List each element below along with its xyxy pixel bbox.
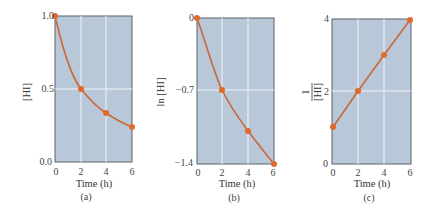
data-point-a-3 <box>129 124 135 130</box>
xtick-b-4: 4 <box>246 167 251 178</box>
x-axis-title-b: Time (h) <box>219 178 256 190</box>
xtick-b-6: 6 <box>271 167 276 178</box>
xtick-c-4: 4 <box>382 167 387 178</box>
xtick-b-0: 0 <box>196 167 201 178</box>
xtick-a-2: 2 <box>79 166 84 177</box>
xtick-b-2: 2 <box>220 167 225 178</box>
ytick-a-0: 0.0 <box>40 156 53 167</box>
ytick-c-4: 4 <box>324 13 329 24</box>
xtick-a-4: 4 <box>104 166 109 177</box>
data-point-b-1 <box>219 87 225 93</box>
x-axis-title-a: Time (h) <box>76 178 113 190</box>
data-point-a-1 <box>78 86 84 92</box>
data-point-c-0 <box>330 124 336 130</box>
chart-a: 1.0 0.5 0.0 0 2 4 6 [HI] Time (h) (a) <box>21 10 135 203</box>
ytick-a-1: 1.0 <box>42 10 55 21</box>
figure-canvas: 1.0 0.5 0.0 0 2 4 6 [HI] Time (h) (a) 0 … <box>0 0 427 219</box>
y-axis-title-c-numerator: 1 <box>300 89 311 94</box>
y-axis-title-a: [HI] <box>21 83 32 101</box>
y-axis-title-c-denominator: [HI] <box>312 83 323 101</box>
data-point-b-0 <box>194 15 200 21</box>
data-point-c-3 <box>407 17 413 23</box>
ytick-c-0: 0 <box>323 158 328 169</box>
x-axis-title-c: Time (h) <box>354 178 391 190</box>
panel-label-a: (a) <box>80 191 91 203</box>
ytick-c-2: 2 <box>324 86 329 97</box>
chart-c: 4 2 0 0 2 4 6 1 [HI] Time (h) (c) <box>300 13 413 204</box>
xtick-c-2: 2 <box>356 167 361 178</box>
xtick-a-0: 0 <box>54 166 59 177</box>
ytick-b-07: −0.7 <box>176 84 194 95</box>
ytick-a-05: 0.5 <box>42 83 55 94</box>
panel-label-c: (c) <box>363 192 374 204</box>
ytick-b-0: 0 <box>189 12 194 23</box>
xtick-c-0: 0 <box>331 167 336 178</box>
panel-label-b: (b) <box>228 192 240 204</box>
data-point-c-1 <box>355 88 361 94</box>
y-axis-title-c: 1 [HI] <box>300 83 323 101</box>
data-point-a-2 <box>103 110 109 116</box>
y-axis-title-b: ln [HI] <box>155 78 166 107</box>
xtick-c-6: 6 <box>408 167 413 178</box>
ytick-b-14: −1.4 <box>175 157 193 168</box>
data-point-b-2 <box>245 128 251 134</box>
plot-area-b <box>197 18 274 164</box>
data-point-c-2 <box>381 52 387 58</box>
chart-b: 0 −0.7 −1.4 0 2 4 6 ln [HI] Time (h) (b) <box>155 12 277 204</box>
xtick-a-6: 6 <box>130 166 135 177</box>
